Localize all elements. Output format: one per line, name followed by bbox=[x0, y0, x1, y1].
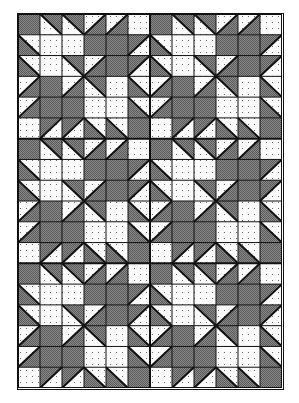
quilt-cell bbox=[18, 180, 40, 201]
quilt-cell bbox=[172, 76, 194, 97]
quilt-cell bbox=[194, 56, 216, 77]
quilt-cell bbox=[84, 367, 106, 388]
quilt-cell bbox=[128, 346, 150, 367]
quilt-cell bbox=[84, 346, 106, 367]
quilt-cell bbox=[238, 263, 260, 284]
quilt-cell bbox=[128, 76, 150, 97]
quilt-cell bbox=[106, 118, 128, 139]
quilt-cell bbox=[238, 35, 260, 56]
quilt-cell bbox=[194, 284, 216, 305]
quilt-cell bbox=[260, 14, 282, 35]
quilt-cell bbox=[40, 326, 62, 347]
quilt-cell bbox=[62, 76, 84, 97]
quilt-cell bbox=[128, 118, 150, 139]
quilt-cell bbox=[106, 367, 128, 388]
quilt-cell bbox=[238, 159, 260, 180]
quilt-cell bbox=[216, 305, 238, 326]
quilt-cell bbox=[62, 35, 84, 56]
quilt-cell bbox=[40, 56, 62, 77]
quilt-cell bbox=[150, 159, 172, 180]
quilt-cell bbox=[128, 97, 150, 118]
quilt-cell bbox=[216, 243, 238, 264]
quilt-cell bbox=[128, 284, 150, 305]
quilt-cell bbox=[128, 139, 150, 160]
quilt-cell bbox=[194, 159, 216, 180]
quilt-cell bbox=[238, 14, 260, 35]
quilt-cell bbox=[194, 305, 216, 326]
quilt-cell bbox=[260, 97, 282, 118]
quilt-cell bbox=[106, 346, 128, 367]
quilt-cell bbox=[128, 305, 150, 326]
quilt-cell bbox=[18, 14, 40, 35]
quilt-cell bbox=[106, 201, 128, 222]
quilt-cell bbox=[84, 180, 106, 201]
quilt-cell bbox=[84, 139, 106, 160]
quilt-cell bbox=[150, 14, 172, 35]
quilt-cell bbox=[238, 139, 260, 160]
quilt-cell bbox=[40, 139, 62, 160]
quilt-cell bbox=[40, 305, 62, 326]
quilt-cell bbox=[172, 118, 194, 139]
quilt-cell bbox=[84, 159, 106, 180]
quilt-cell bbox=[238, 201, 260, 222]
quilt-cell bbox=[260, 56, 282, 77]
quilt-cell bbox=[18, 97, 40, 118]
quilt-cell bbox=[238, 326, 260, 347]
quilt-cell bbox=[260, 139, 282, 160]
quilt-cell bbox=[40, 284, 62, 305]
quilt-cell bbox=[194, 76, 216, 97]
quilt-cell bbox=[150, 243, 172, 264]
quilt-cell bbox=[18, 263, 40, 284]
quilt-cell bbox=[172, 35, 194, 56]
quilt-cell bbox=[238, 367, 260, 388]
quilt-cell bbox=[238, 284, 260, 305]
quilt-cell bbox=[62, 139, 84, 160]
quilt-cell bbox=[194, 97, 216, 118]
quilt-cell bbox=[194, 118, 216, 139]
quilt-cell bbox=[172, 201, 194, 222]
quilt-cell bbox=[106, 305, 128, 326]
quilt-cell bbox=[216, 326, 238, 347]
quilt-cell bbox=[150, 139, 172, 160]
quilt-cell bbox=[194, 180, 216, 201]
quilt-cell bbox=[84, 97, 106, 118]
quilt-cell bbox=[150, 284, 172, 305]
quilt-cell bbox=[150, 201, 172, 222]
quilt-cell bbox=[260, 346, 282, 367]
quilt-cell bbox=[128, 222, 150, 243]
quilt-cell bbox=[84, 76, 106, 97]
quilt-cell bbox=[216, 201, 238, 222]
quilt-cell bbox=[106, 222, 128, 243]
quilt-cell bbox=[40, 243, 62, 264]
quilt-cell bbox=[216, 263, 238, 284]
quilt-cell bbox=[216, 159, 238, 180]
quilt-cell bbox=[18, 367, 40, 388]
quilt-cell bbox=[18, 284, 40, 305]
quilt-cell bbox=[40, 159, 62, 180]
quilt-cell bbox=[62, 159, 84, 180]
quilt-cell bbox=[18, 118, 40, 139]
quilt-cell bbox=[62, 326, 84, 347]
quilt-cell bbox=[40, 118, 62, 139]
quilt-cell bbox=[260, 367, 282, 388]
quilt-cell bbox=[62, 180, 84, 201]
quilt-cell bbox=[40, 97, 62, 118]
quilt-cell bbox=[62, 367, 84, 388]
quilt-cell bbox=[62, 201, 84, 222]
quilt-cell bbox=[216, 97, 238, 118]
quilt-cell bbox=[216, 14, 238, 35]
quilt-cell bbox=[106, 139, 128, 160]
quilt-cell bbox=[260, 284, 282, 305]
quilt-cell bbox=[84, 284, 106, 305]
quilt-pattern: Quilt block pattern — repeating star blo… bbox=[17, 13, 284, 390]
quilt-cell bbox=[238, 305, 260, 326]
quilt-cell bbox=[194, 139, 216, 160]
quilt-cell bbox=[194, 222, 216, 243]
quilt-cell bbox=[84, 14, 106, 35]
quilt-cell bbox=[18, 76, 40, 97]
quilt-cell bbox=[18, 201, 40, 222]
quilt-cell bbox=[106, 76, 128, 97]
quilt-cell bbox=[106, 159, 128, 180]
quilt-cell bbox=[128, 243, 150, 264]
quilt-cell bbox=[260, 326, 282, 347]
